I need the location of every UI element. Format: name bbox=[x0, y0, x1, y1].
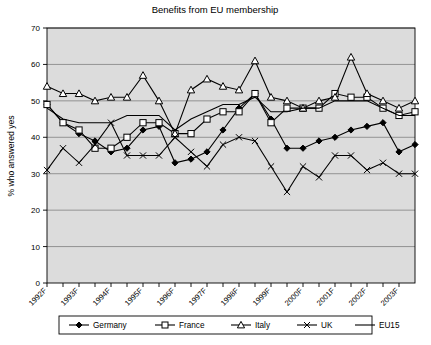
marker-open-square bbox=[162, 322, 168, 328]
plot-area: 0102030405060701992F1993F1994F1995F1996F… bbox=[27, 24, 419, 308]
y-tick-label: 60 bbox=[31, 60, 40, 69]
y-tick-label: 70 bbox=[31, 24, 40, 33]
legend-label: EU15 bbox=[379, 321, 400, 330]
plot-background bbox=[47, 28, 415, 283]
legend-label: Germany bbox=[93, 321, 128, 330]
marker-open-square bbox=[124, 134, 130, 140]
y-tick-label: 10 bbox=[31, 243, 40, 252]
marker-open-square bbox=[220, 109, 226, 115]
marker-open-square bbox=[140, 120, 146, 126]
marker-open-square bbox=[348, 94, 354, 100]
marker-open-square bbox=[412, 109, 418, 115]
y-axis-label: % who answered yes bbox=[6, 115, 16, 196]
y-tick-label: 0 bbox=[36, 279, 41, 288]
marker-open-square bbox=[284, 105, 290, 111]
y-tick-label: 50 bbox=[31, 97, 40, 106]
marker-open-square bbox=[204, 116, 210, 122]
legend-label: Italy bbox=[255, 321, 271, 330]
marker-open-square bbox=[236, 109, 242, 115]
legend-label: France bbox=[179, 321, 205, 330]
chart-legend: GermanyFranceItalyUKEU15 bbox=[59, 316, 400, 334]
marker-open-square bbox=[188, 131, 194, 137]
chart-title: Benefits from EU membership bbox=[152, 4, 279, 15]
marker-open-square bbox=[108, 145, 114, 151]
y-tick-label: 30 bbox=[31, 170, 40, 179]
marker-open-square bbox=[44, 101, 50, 107]
legend-label: UK bbox=[321, 321, 333, 330]
chart-container: Benefits from EU membership % who answer… bbox=[0, 0, 431, 345]
eu-membership-line-chart: Benefits from EU membership % who answer… bbox=[0, 0, 431, 345]
y-tick-label: 40 bbox=[31, 133, 40, 142]
marker-open-square bbox=[76, 127, 82, 133]
marker-open-square bbox=[268, 120, 274, 126]
marker-open-square bbox=[156, 120, 162, 126]
y-tick-label: 20 bbox=[31, 206, 40, 215]
marker-open-square bbox=[60, 120, 66, 126]
marker-open-square bbox=[252, 90, 258, 96]
